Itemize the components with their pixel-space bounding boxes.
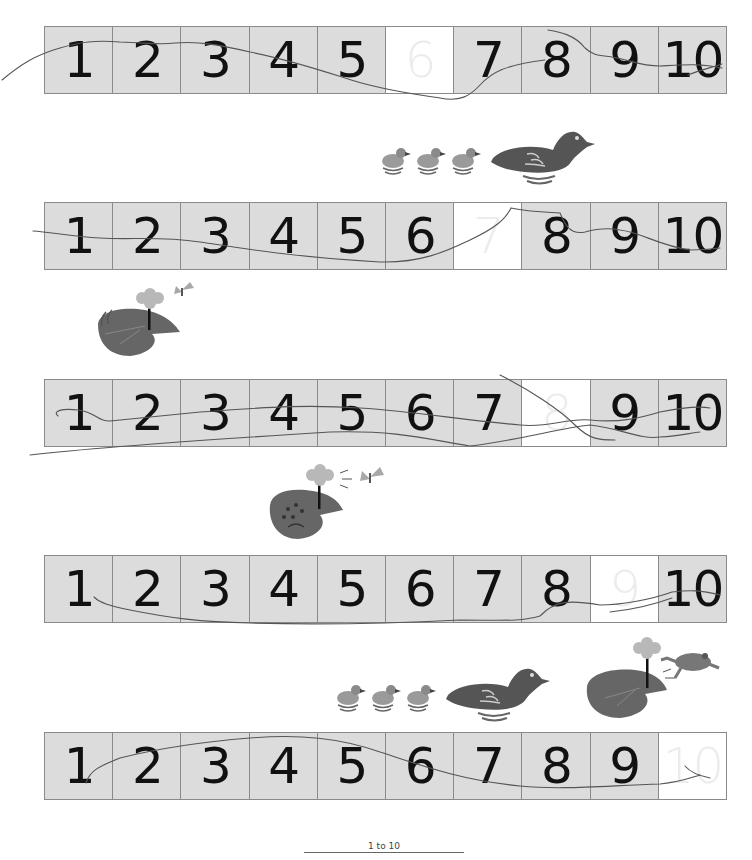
number-cell: 5 [318,556,386,622]
number-cell: 3 [181,733,249,799]
digit: 5 [337,564,367,614]
missing-number-cell[interactable]: 8 [522,380,590,446]
duckling-icon [372,685,401,711]
number-strip-3: 1 2 3 4 5 6 7 8 9 10 [44,379,727,447]
number-cell: 7 [454,733,522,799]
number-cell: 4 [250,733,318,799]
digit: 9 [609,741,639,791]
worksheet-footer: 1 to 10 [304,841,464,853]
duck-icon [446,669,550,721]
number-cell: 5 [318,380,386,446]
digit: 2 [132,211,162,261]
number-cell: 7 [454,380,522,446]
number-cell: 6 [386,203,454,269]
digit: 1 [64,35,94,85]
number-cell: 2 [113,203,181,269]
number-cell: 10 [659,27,726,93]
digit: 6 [405,388,435,438]
number-cell: 1 [45,203,113,269]
duck-icon [491,132,595,184]
number-cell: 9 [591,27,659,93]
number-cell: 3 [181,380,249,446]
number-cell: 5 [318,27,386,93]
footer-label: 1 to 10 [304,841,464,851]
digit: 10 [663,388,723,438]
missing-number-cell[interactable]: 7 [454,203,522,269]
number-cell: 10 [659,203,726,269]
digit: 10 [663,211,723,261]
digit: 4 [268,564,298,614]
digit: 3 [200,741,230,791]
digit: 4 [268,388,298,438]
digit: 3 [200,211,230,261]
number-cell: 9 [591,380,659,446]
number-cell: 5 [318,203,386,269]
faint-digit: 8 [541,388,571,438]
digit: 5 [337,35,367,85]
digit: 5 [337,388,367,438]
digit: 1 [64,211,94,261]
duckling-icon [382,148,411,174]
digit: 8 [541,741,571,791]
faint-digit: 10 [663,741,723,791]
number-cell: 2 [113,733,181,799]
digit: 1 [64,741,94,791]
jumping-frog-illustration [575,632,725,722]
digit: 8 [541,564,571,614]
digit: 4 [268,741,298,791]
lily-pad-illustration [90,274,200,364]
digit: 5 [337,741,367,791]
number-cell: 7 [454,27,522,93]
butterfly-icon [360,467,384,483]
digit: 8 [541,211,571,261]
digit: 2 [132,35,162,85]
digit: 5 [337,211,367,261]
number-cell: 3 [181,27,249,93]
number-cell: 8 [522,27,590,93]
digit: 10 [663,35,723,85]
digit: 2 [132,564,162,614]
footer-rule [304,852,464,853]
number-cell: 2 [113,380,181,446]
missing-number-cell[interactable]: 10 [659,733,726,799]
number-cell: 4 [250,556,318,622]
digit: 10 [663,564,723,614]
digit: 4 [268,35,298,85]
number-cell: 9 [591,733,659,799]
duckling-icon [417,148,446,174]
digit: 8 [541,35,571,85]
missing-number-cell[interactable]: 6 [386,27,454,93]
butterfly-icon [174,282,194,296]
duckling-icon [452,148,481,174]
number-strip-2: 1 2 3 4 5 6 7 8 9 10 [44,202,727,270]
faint-digit: 6 [405,35,435,85]
digit: 9 [609,388,639,438]
faint-digit: 9 [609,564,639,614]
digit: 7 [473,564,503,614]
number-cell: 3 [181,203,249,269]
digit: 2 [132,741,162,791]
digit: 4 [268,211,298,261]
number-cell: 2 [113,27,181,93]
missing-number-cell[interactable]: 9 [591,556,659,622]
number-cell: 1 [45,27,113,93]
number-cell: 1 [45,733,113,799]
digit: 3 [200,564,230,614]
number-cell: 10 [659,380,726,446]
number-cell: 2 [113,556,181,622]
number-cell: 8 [522,203,590,269]
number-strip-1: 1 2 3 4 5 6 7 8 9 10 [44,26,727,94]
digit: 1 [64,388,94,438]
ducks-illustration-1 [375,118,595,188]
number-cell: 4 [250,27,318,93]
duckling-icon [407,685,436,711]
digit: 7 [473,741,503,791]
digit: 6 [405,741,435,791]
digit: 9 [609,35,639,85]
digit: 1 [64,564,94,614]
digit: 6 [405,211,435,261]
number-cell: 8 [522,556,590,622]
frog-icon [661,653,719,678]
digit: 7 [473,35,503,85]
number-cell: 6 [386,556,454,622]
